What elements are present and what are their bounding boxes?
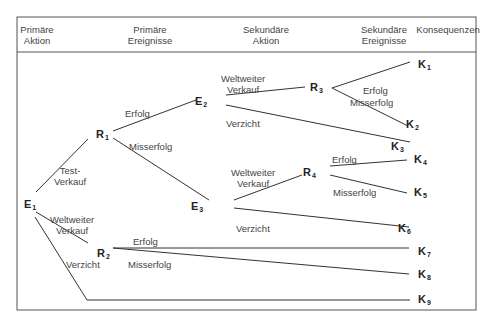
node-index: 3 [400, 146, 404, 153]
label-waive-e3: Verzicht [236, 223, 270, 234]
label-waive-e2: Verzicht [226, 118, 260, 129]
header-line: Konsequenzen [416, 24, 479, 35]
header-line: Aktion [243, 35, 289, 46]
node-letter: K [398, 222, 406, 234]
header-secondary-events: Sekundäre Ereignisse [361, 24, 407, 46]
label-failure-r2: Misserfolg [128, 259, 171, 270]
consequence-k3: K3 [391, 140, 404, 153]
label-line: Test- [54, 165, 86, 176]
header-line: Primäre [128, 24, 172, 35]
node-index: 3 [199, 206, 203, 213]
node-letter: E [24, 198, 31, 210]
node-e1: E1 [24, 198, 36, 211]
node-index: 6 [407, 228, 411, 235]
node-letter: E [191, 200, 198, 212]
consequence-k5: K5 [414, 186, 427, 199]
node-index: 9 [427, 299, 431, 306]
node-index: 7 [427, 251, 431, 258]
node-letter: R [96, 128, 104, 140]
label-failure-r4: Misserfolg [333, 187, 376, 198]
consequence-k4: K4 [414, 153, 427, 166]
node-letter: K [414, 186, 422, 198]
node-index: 1 [427, 64, 431, 71]
label-line: Verkauf [231, 178, 275, 189]
node-index: 5 [423, 192, 427, 199]
node-index: 1 [32, 204, 36, 211]
node-r1: R1 [96, 128, 109, 141]
node-e3: E3 [191, 200, 203, 213]
header-line: Ereignisse [361, 35, 407, 46]
label-success-r3: Erfolg [363, 85, 388, 96]
label-worldwide-sale-e1: Weltweiter Verkauf [50, 214, 94, 236]
header-line: Aktion [20, 35, 53, 46]
label-worldwide-sale-e2: Weltweiter Verkauf [221, 73, 265, 95]
label-line: Verkauf [221, 84, 265, 95]
consequence-k6: K6 [398, 222, 411, 235]
node-index: 3 [319, 87, 323, 94]
label-line: Weltweiter [221, 73, 265, 84]
node-index: 8 [427, 274, 431, 281]
consequence-k8: K8 [418, 268, 431, 281]
consequence-k1: K1 [418, 58, 431, 71]
node-e2: E2 [195, 95, 207, 108]
label-success-r1: Erfolg [125, 108, 150, 119]
label-line: Verkauf [50, 225, 94, 236]
header-line: Primäre [20, 24, 53, 35]
node-letter: R [303, 166, 311, 178]
node-r4: R4 [303, 166, 316, 179]
consequence-k7: K7 [418, 245, 431, 258]
node-index: 2 [203, 101, 207, 108]
header-secondary-action: Sekundäre Aktion [243, 24, 289, 46]
node-index: 4 [423, 159, 427, 166]
label-failure-r3: Misserfolg [350, 97, 393, 108]
label-success-r4: Erfolg [332, 154, 357, 165]
node-index: 1 [105, 134, 109, 141]
label-line: Verkauf [54, 176, 86, 187]
node-letter: K [414, 153, 422, 165]
header-line: Sekundäre [361, 24, 407, 35]
node-letter: K [418, 58, 426, 70]
node-index: 4 [312, 172, 316, 179]
node-letter: R [97, 247, 105, 259]
label-line: Weltweiter [50, 214, 94, 225]
node-index: 2 [106, 253, 110, 260]
node-letter: K [406, 118, 414, 130]
node-letter: K [418, 293, 426, 305]
consequence-k9: K9 [418, 293, 431, 306]
node-letter: E [195, 95, 202, 107]
header-line: Ereignisse [128, 35, 172, 46]
node-letter: K [391, 140, 399, 152]
node-letter: R [310, 81, 318, 93]
node-letter: K [418, 245, 426, 257]
node-r3: R3 [310, 81, 323, 94]
label-failure-r1: Misserfolg [129, 141, 172, 152]
label-success-r2: Erfolg [133, 236, 158, 247]
label-waive-e1: Verzicht [66, 259, 100, 270]
node-index: 2 [415, 124, 419, 131]
header-primary-events: Primäre Ereignisse [128, 24, 172, 46]
header-primary-action: Primäre Aktion [20, 24, 53, 46]
header-line: Sekundäre [243, 24, 289, 35]
label-test-sale: Test- Verkauf [54, 165, 86, 187]
label-line: Weltweiter [231, 167, 275, 178]
label-worldwide-sale-e3: Weltweiter Verkauf [231, 167, 275, 189]
node-letter: K [418, 268, 426, 280]
consequence-k2: K2 [406, 118, 419, 131]
header-consequences: Konsequenzen [416, 24, 479, 35]
